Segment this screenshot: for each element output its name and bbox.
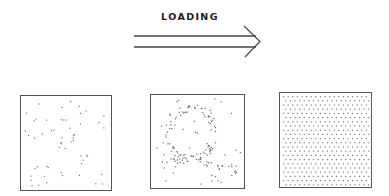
panel-sparse-dots (20, 95, 112, 191)
panel-partial-pattern-dots (150, 94, 245, 189)
dot-field (151, 95, 246, 190)
arrow-head (244, 26, 260, 57)
dot-field (21, 96, 113, 192)
panel-dense-dots (279, 92, 372, 188)
dot-field (280, 93, 373, 189)
right-arrow-icon (0, 0, 389, 70)
